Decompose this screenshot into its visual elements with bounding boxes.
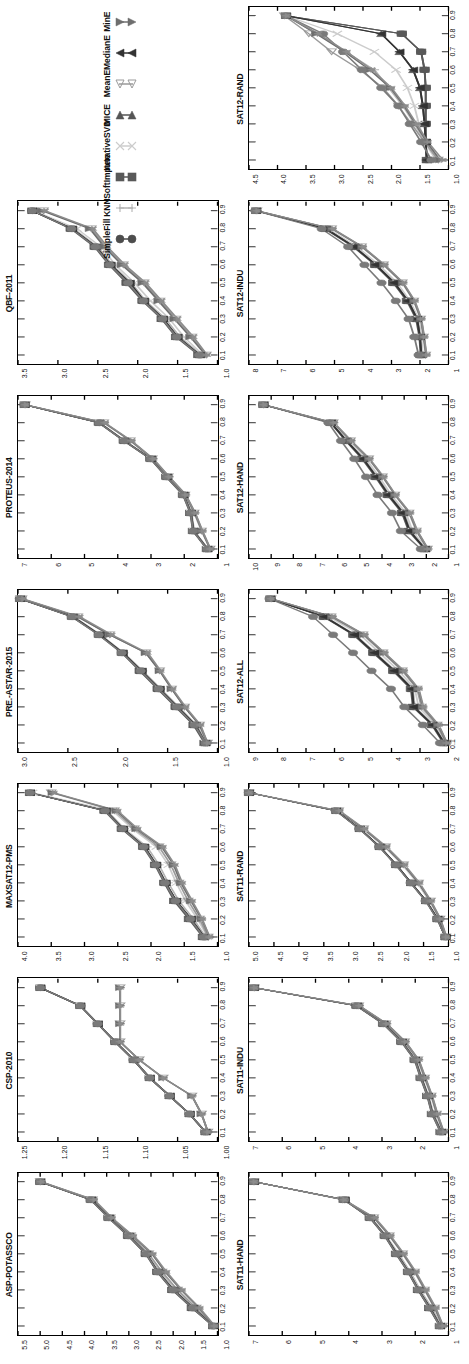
axes-box [248, 589, 450, 753]
plot-panel: MAXSAT12-PMS 1.01.52.02.53.03.54.0 0.10.… [4, 779, 235, 973]
legend-item-mice[interactable]: MICE [102, 99, 137, 130]
panel-title: SAT11-RAND [235, 779, 245, 973]
legend-item-mc[interactable]: MC [102, 0, 137, 6]
x-tick-label: 0.7 [449, 435, 457, 445]
x-tick-label: 0.4 [219, 296, 227, 306]
x-tick-label: 0.1 [219, 1128, 227, 1138]
x-tick-label: 0.4 [449, 1073, 457, 1083]
x-tick-label: 0.7 [219, 241, 227, 251]
x-tick-label: 0.1 [449, 351, 457, 361]
legend-item-meane[interactable]: MeanE [102, 68, 137, 99]
legend-item-iterativesvd[interactable]: IterativeSVD [102, 130, 137, 161]
x-tick-label: 0.4 [449, 684, 457, 694]
x-tick-label: 0.2 [219, 1109, 227, 1119]
y-tick-label: 3 [395, 369, 402, 373]
grid-cell: SAT12-HAND 12345678910 0.10.20.30.40.50.… [235, 391, 466, 585]
x-tick-label: 0.2 [219, 721, 227, 731]
x-tick-label: 0.1 [219, 545, 227, 555]
x-tick-label: 0.2 [449, 1304, 457, 1314]
grid-cell: SAT11-INDU 1234567 0.10.20.30.40.50.60.7… [235, 973, 466, 1167]
x-axis-tick-labels: 0.10.20.30.40.50.60.70.80.9 [449, 977, 463, 1141]
y-tick-label: 3.0 [337, 174, 344, 184]
x-tick-label: 0.1 [219, 933, 227, 943]
legend-marker-sample [115, 0, 137, 4]
axes-box [248, 200, 450, 364]
x-tick-label: 0.9 [219, 399, 227, 409]
y-tick-label: 1.0 [222, 369, 229, 379]
panel-title: SAT11-INDU [235, 973, 245, 1167]
y-axis-tick-labels: 1.001.051.101.151.201.25 [17, 1142, 219, 1168]
y-tick-label: 8 [280, 757, 287, 761]
plot-panel: SAT12-ALL 23456789 0.10.20.30.40.50.60.7… [235, 585, 466, 779]
y-tick-label: 3.0 [352, 951, 359, 961]
x-tick-label: 0.7 [219, 630, 227, 640]
axes-box [248, 1172, 450, 1336]
y-tick-label: 1.5 [182, 369, 189, 379]
y-tick-label: 2 [424, 369, 431, 373]
x-tick-label: 0.8 [219, 417, 227, 427]
y-tick-label: 4 [121, 563, 128, 567]
x-tick-label: 0.3 [219, 1091, 227, 1101]
x-tick-label: 0.8 [219, 611, 227, 621]
panel-title: SAT12-INDU [235, 196, 245, 390]
y-tick-label: 1.5 [188, 951, 195, 961]
y-tick-label: 2 [419, 1340, 426, 1344]
legend-marker-sample [115, 40, 137, 66]
x-tick-label: 0.7 [449, 47, 457, 57]
y-tick-label: 5 [88, 563, 95, 567]
panel-title: CSP-2010 [4, 973, 14, 1167]
y-tick-label: 1 [222, 563, 229, 567]
y-tick-label: 1.15 [101, 1146, 108, 1160]
y-tick-label: 3 [385, 1146, 392, 1150]
y-tick-label: 1.5 [172, 757, 179, 767]
plot-panel: SAT12-INDU 12345678 0.10.20.30.40.50.60.… [235, 196, 466, 390]
x-tick-label: 0.6 [219, 842, 227, 852]
legend-label: SimpleFill [102, 219, 112, 259]
legend-label: MeanE [102, 70, 112, 97]
axes-box [248, 395, 450, 559]
x-tick-label: 0.4 [449, 879, 457, 889]
y-axis-tick-labels: 1.01.52.02.53.03.54.04.55.05.5 [17, 1336, 219, 1362]
x-tick-label: 0.8 [449, 806, 457, 816]
panel-title: MAXSAT12-PMS [4, 779, 14, 973]
legend-label: MICE [102, 104, 112, 125]
legend-item-mediane[interactable]: MedianE [102, 37, 137, 68]
y-tick-label: 3 [408, 563, 415, 567]
plot-area [17, 395, 219, 559]
series-markers [244, 790, 450, 940]
x-tick-label: 0.9 [219, 787, 227, 797]
grid-cell: PROTEUS-2014 1234567 0.10.20.30.40.50.60… [4, 391, 235, 585]
plot-panel: SAT12-HAND 12345678910 0.10.20.30.40.50.… [235, 391, 466, 585]
y-tick-label: 5 [318, 1146, 325, 1150]
x-tick-label: 0.6 [449, 1036, 457, 1046]
plot-panel: SAT11-INDU 1234567 0.10.20.30.40.50.60.7… [235, 973, 466, 1167]
y-tick-label: 3.5 [309, 174, 316, 184]
y-tick-label: 1.20 [61, 1146, 68, 1160]
y-tick-label: 2 [419, 1146, 426, 1150]
legend-item-mine[interactable]: MinE [102, 6, 137, 37]
plot-panel: SAT11-RAND 1.01.52.02.53.03.54.04.55.0 0… [235, 779, 466, 973]
y-tick-label: 4 [395, 757, 402, 761]
axes-box [17, 395, 219, 559]
y-tick-label: 2 [453, 757, 460, 761]
x-tick-label: 0.5 [449, 278, 457, 288]
y-axis-tick-labels: 1.01.52.02.53.0 [17, 753, 219, 779]
y-tick-label: 2.0 [395, 174, 402, 184]
plot-area [248, 977, 450, 1141]
x-tick-label: 0.1 [449, 1322, 457, 1332]
y-tick-label: 8 [251, 369, 258, 373]
x-tick-label: 0.6 [219, 648, 227, 658]
x-axis-tick-labels: 0.10.20.30.40.50.60.70.80.9 [449, 6, 463, 170]
y-tick-label: 2.5 [121, 951, 128, 961]
y-tick-label: 6 [285, 1340, 292, 1344]
legend-item-simplefill[interactable]: SimpleFill [102, 223, 137, 254]
x-tick-label: 0.3 [449, 314, 457, 324]
x-axis-tick-labels: 0.10.20.30.40.50.60.70.80.9 [219, 977, 233, 1141]
x-tick-label: 0.8 [219, 1000, 227, 1010]
x-tick-label: 0.7 [219, 435, 227, 445]
y-tick-label: 3 [424, 757, 431, 761]
x-tick-label: 0.5 [449, 666, 457, 676]
x-tick-label: 0.7 [219, 824, 227, 834]
x-tick-label: 0.7 [449, 1212, 457, 1222]
x-tick-label: 0.5 [219, 1249, 227, 1259]
